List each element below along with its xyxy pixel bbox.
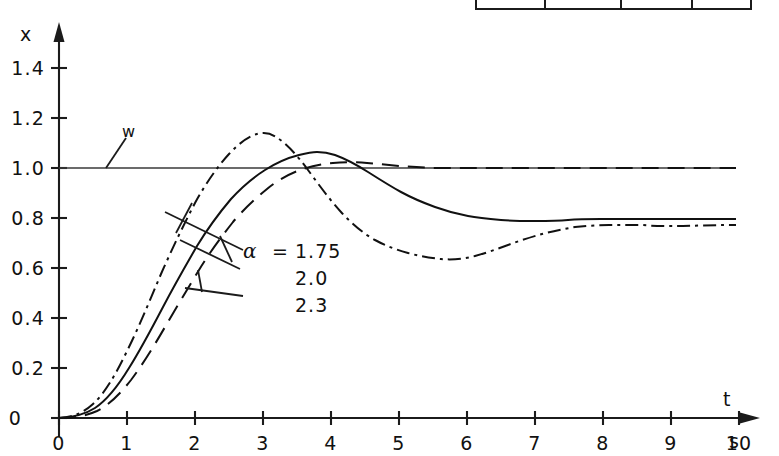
y-axis-arrowhead [54,22,65,42]
y-tick-labels: 0 0.2 0.4 0.6 0.8 1.0 1.2 1.4 [9,57,45,429]
x-axis-arrowhead [740,413,760,424]
x-tick-label: 4 [324,432,337,454]
alpha-equals-sign: = [272,240,289,262]
w-leader-line [106,138,126,168]
y-tick-label: 0.4 [11,307,45,329]
y-tick-label: 0.6 [11,257,45,279]
x-tick-label: 8 [596,432,609,454]
reference-label-w: w [122,122,135,141]
x-tick-label: 7 [528,432,541,454]
x-tick-label: 6 [460,432,473,454]
chart-canvas: x t s w 0 0.2 0.4 0.6 0.8 1.0 1.2 1.4 0 … [0,0,779,456]
alpha-value-1: 1.75 [295,240,341,262]
y-tick-label: 1.0 [11,157,45,179]
y-tick-label: 0.2 [11,357,45,379]
x-axis-label: t [723,388,730,410]
step-response-figure: x t s w 0 0.2 0.4 0.6 0.8 1.0 1.2 1.4 0 … [0,0,779,456]
curve-alpha-2-3 [59,162,736,418]
x-tick-label: 9 [664,432,677,454]
x-tick-label: 0 [52,432,65,454]
y-tick-label: 0.8 [11,207,45,229]
x-tick-label: 10 [726,432,753,454]
x-tick-label: 5 [392,432,405,454]
x-tick-label: 2 [188,432,201,454]
x-tick-label: 1 [120,432,133,454]
y-tick-label: 0 [9,407,22,429]
curve-alpha-2-0 [59,152,736,418]
alpha-value-2: 2.0 [295,267,328,289]
y-axis-label: x [20,23,31,45]
axis-group [54,22,761,437]
alpha-annotation: α = 1.75 2.0 2.3 [243,239,341,316]
y-tick-label: 1.2 [11,107,45,129]
alpha-value-3: 2.3 [295,294,328,316]
curve-alpha-1-75 [59,133,736,418]
alpha-symbol: α [243,239,257,263]
table-fragment [476,0,751,9]
x-tick-labels: 0 1 2 3 4 5 6 7 8 9 10 [52,432,752,454]
y-tick-label: 1.4 [11,57,45,79]
x-tick-label: 3 [256,432,269,454]
